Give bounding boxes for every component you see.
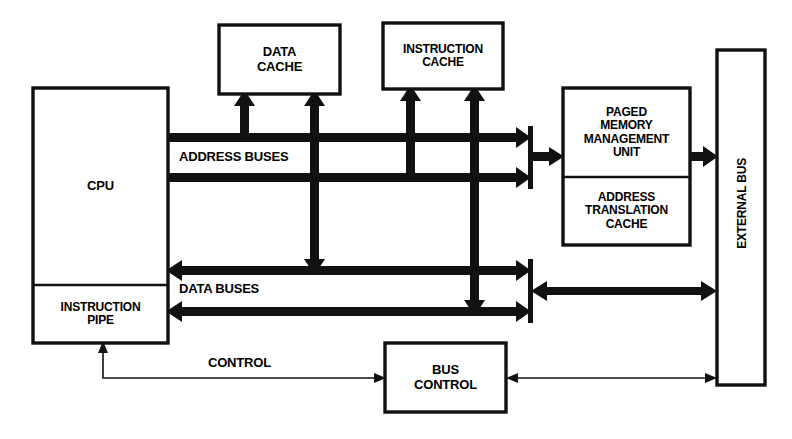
block-paged-memory-management-unit[interactable] xyxy=(563,88,690,245)
bus-control-external-left-arrowhead xyxy=(506,373,518,383)
diagram-canvas xyxy=(0,0,792,439)
data-bus-to-external-left-arrowhead xyxy=(531,281,547,301)
bus-label-data-buses: DATA BUSES xyxy=(176,281,262,296)
data-cache-connections xyxy=(234,90,325,275)
instruction-cache-connections xyxy=(400,85,485,316)
bus-label-address-buses: ADDRESS BUSES xyxy=(176,149,291,164)
instruction-cache-address-stub xyxy=(406,98,415,178)
instruction-cache-data-stub xyxy=(470,98,479,313)
block-shapes xyxy=(33,23,765,412)
block-cpu[interactable] xyxy=(33,88,168,343)
data-bus-to-external-right-arrowhead xyxy=(701,281,717,301)
bus-control-external-right-arrowhead xyxy=(705,373,717,383)
block-instruction-cache[interactable] xyxy=(383,23,503,89)
data-cache-data-stub xyxy=(310,103,319,273)
mmu-to-external-bus-link xyxy=(689,146,718,167)
block-diagram: CPU INSTRUCTION PIPE DATA CACHE INSTRUCT… xyxy=(0,0,792,439)
bus-label-control: CONTROL xyxy=(205,355,274,370)
block-data-cache[interactable] xyxy=(219,25,340,94)
data-bus-to-external-line xyxy=(543,287,708,295)
data-cache-address-stub xyxy=(240,103,249,139)
block-label-external-bus: EXTERNAL BUS xyxy=(735,158,749,249)
block-bus-control[interactable] xyxy=(385,343,506,412)
